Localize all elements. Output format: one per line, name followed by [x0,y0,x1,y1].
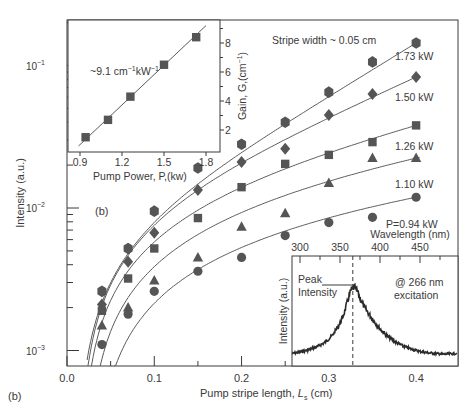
figure-label: (b) [8,390,21,402]
data-point [368,56,377,68]
x-axis-label: Pump stripe length, Ls (cm) [200,387,333,401]
excitation-label: @ 266 nm [395,276,444,288]
data-point [237,183,245,191]
x-tick-label: 0.0 [59,372,74,384]
data-point [97,340,106,349]
y-tick-label: 4 [225,95,231,107]
data-point [97,320,107,330]
slope-annotation: ~9.1 cm−1kW−1 [90,65,159,77]
data-point [412,193,421,202]
data-point [280,208,290,218]
x-tick-label: 350 [331,241,349,253]
gain-data-point [104,116,112,124]
gain-data-point [192,33,200,41]
data-point [194,214,202,222]
gain-data-point [81,133,89,141]
data-point [324,86,333,98]
chart-svg: 0.00.10.20.30.410−310−210−11.73 kW1.50 k… [0,0,473,413]
x-tick-label: 0.2 [234,372,249,384]
x-tick-label: 0.9 [73,156,88,168]
y-tick-label: 2 [225,124,231,136]
x-tick-label: 450 [411,241,429,253]
data-point [367,88,377,100]
data-point [237,253,246,262]
data-point [149,275,159,285]
series-label: 1.26 kW [395,140,434,152]
data-point [193,184,203,196]
panel-label: (b) [95,205,108,217]
inset-gain-plot: 0.91.21.51.82468~9.1 cm−1kW−1Pump Power,… [68,20,248,182]
y-tick-label: 10−3 [26,344,45,357]
data-point [193,267,202,276]
data-point [281,231,290,240]
inset-y-axis-label: Gain, G,(cm−1) [236,52,248,120]
data-point [193,252,203,261]
data-point [281,160,289,168]
peak-label: Peak [298,273,323,285]
data-point [150,287,159,296]
data-point [237,138,246,150]
stripe-width-annotation: Stripe width ~ 0.05 cm [272,34,376,46]
series-label: 1.50 kW [395,91,434,103]
data-point [98,307,106,315]
data-point [280,143,290,155]
y-axis-label: Intensity (a.u.) [14,158,26,228]
data-point [367,153,377,163]
data-point [412,121,420,129]
data-point [368,138,376,146]
gain-data-point [126,92,134,100]
x-tick-label: 400 [371,241,389,253]
x-tick-label: 1.5 [157,156,172,168]
data-point [124,274,132,282]
x-tick-label: 300 [291,241,309,253]
data-point [411,71,421,83]
gain-data-point [160,61,168,69]
x-tick-label: 1.2 [115,156,130,168]
wavelength-axis-label: Wavelength (nm) [370,228,450,240]
data-point [237,156,247,168]
y-tick-label: 10−1 [26,59,45,72]
spectrum-y-axis-label: Intensity (a.u.) [277,278,289,345]
x-tick-label: 0.3 [321,372,336,384]
y-tick-label: 8 [225,37,231,49]
y-tick-label: 10−2 [26,201,45,214]
data-point [411,153,421,163]
inset-x-axis-label: Pump Power, P,(kw) [93,170,187,182]
data-point [123,310,132,319]
data-point [324,218,333,227]
data-point [124,243,133,255]
data-point [412,37,421,49]
series-label: 1.73 kW [395,50,434,62]
data-point [150,205,159,217]
data-point [236,221,246,231]
series-label: 1.10 kW [395,178,434,190]
x-tick-label: 0.4 [408,372,423,384]
data-point [368,213,377,222]
y-tick-label: 6 [225,66,231,78]
inset-spectrum-plot: 300350400450Wavelength (nm)PeakIntensity… [277,228,458,366]
data-point [150,244,158,252]
x-tick-label: 0.1 [147,372,162,384]
excitation-label: excitation [394,289,439,301]
figure: 0.00.10.20.30.410−310−210−11.73 kW1.50 k… [0,0,473,413]
peak-label: Intensity [298,286,338,298]
data-point [325,151,333,159]
x-tick-label: 1.8 [199,156,214,168]
